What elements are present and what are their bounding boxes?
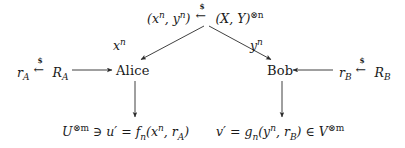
output-alice-label: U⊗m∋u′=fn(xn, rA) bbox=[62, 124, 189, 142]
source-left-tuple: (xn, yn) bbox=[147, 11, 190, 26]
sampling-arrow-alice: $ ← bbox=[33, 64, 49, 77]
party-bob[interactable]: Bob bbox=[267, 64, 293, 77]
randomness-bob-label: rB $ ← RB bbox=[339, 64, 391, 82]
edge-label-x-n: xn bbox=[113, 38, 126, 53]
source-distribution: (X, Y)⊗n bbox=[215, 11, 263, 26]
left-arrow-icon: ← bbox=[356, 64, 366, 77]
output-bob-label: v′=gn(yn, rB)∈V⊗m bbox=[216, 124, 344, 142]
element-of-icon: ∈ bbox=[305, 124, 314, 139]
party-alice[interactable]: Alice bbox=[116, 64, 150, 77]
membership-icon: ∋ bbox=[93, 124, 102, 139]
left-arrow-icon: ← bbox=[33, 64, 43, 77]
source-sampling-label: (xn, yn) $ ← (X, Y)⊗n bbox=[147, 10, 264, 25]
left-arrow-icon: ← bbox=[195, 10, 205, 23]
protocol-diagram: (xn, yn) $ ← (X, Y)⊗n xn yn Alice Bob rA… bbox=[0, 0, 405, 148]
party-alice-label: Alice bbox=[116, 63, 150, 78]
arrow-source-to-alice bbox=[141, 26, 204, 60]
edge-label-y-n: yn bbox=[250, 38, 263, 53]
randomness-alice-label: rA $ ← RA bbox=[17, 64, 68, 82]
sampling-arrow-bob: $ ← bbox=[356, 64, 372, 77]
sampling-arrow-source: $ ← bbox=[195, 10, 211, 23]
party-bob-label: Bob bbox=[267, 63, 293, 78]
